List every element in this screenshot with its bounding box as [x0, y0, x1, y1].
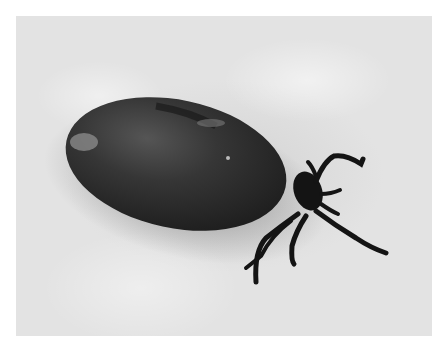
tick-highlight-2 — [197, 119, 225, 127]
tick-highlight — [70, 133, 98, 151]
tick-illustration — [16, 16, 432, 336]
tick-highlight-3 — [226, 156, 230, 160]
tick-photo — [16, 16, 432, 336]
